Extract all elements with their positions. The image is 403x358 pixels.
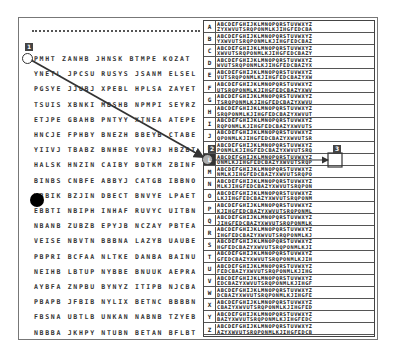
marker-1: 1: [25, 43, 33, 51]
marker-2: 2: [208, 145, 216, 153]
saccade-arrow-1-2: [31, 60, 203, 157]
marker-3: 3: [333, 145, 341, 153]
gaze-path-overlay: [0, 0, 403, 358]
fixation-circle-2: [202, 154, 213, 165]
fixation-circle-1: [22, 53, 33, 64]
target-cell-box: [328, 153, 342, 167]
